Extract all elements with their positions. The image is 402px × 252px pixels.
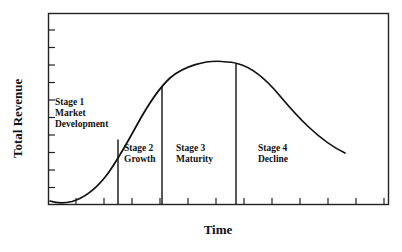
product-life-cycle-chart: Total Revenue Time Stage 1 Market Develo… bbox=[0, 0, 402, 252]
stage-2-line-2: Growth bbox=[124, 154, 156, 164]
stage-2-label: Stage 2 Growth bbox=[124, 143, 156, 164]
stage-3-line-2: Maturity bbox=[176, 154, 213, 164]
stage-3-label: Stage 3 Maturity bbox=[176, 143, 213, 164]
y-axis-title: Total Revenue bbox=[10, 78, 25, 158]
stage-4-line-2: Decline bbox=[258, 154, 288, 164]
stage-1-line-2: Market bbox=[55, 108, 86, 118]
stage-4-label: Stage 4 Decline bbox=[258, 143, 288, 164]
revenue-curve bbox=[50, 61, 345, 202]
plot-frame bbox=[49, 14, 389, 205]
stage-4-line-1: Stage 4 bbox=[258, 143, 288, 153]
stage-1-line-1: Stage 1 bbox=[55, 97, 85, 107]
chart-canvas: Total Revenue Time Stage 1 Market Develo… bbox=[0, 0, 402, 252]
stage-1-label: Stage 1 Market Development bbox=[55, 97, 109, 129]
x-axis-title: Time bbox=[204, 222, 233, 237]
x-axis-ticks bbox=[76, 198, 384, 205]
stage-2-line-1: Stage 2 bbox=[124, 143, 154, 153]
stage-1-line-3: Development bbox=[55, 119, 109, 129]
stage-3-line-1: Stage 3 bbox=[176, 143, 206, 153]
